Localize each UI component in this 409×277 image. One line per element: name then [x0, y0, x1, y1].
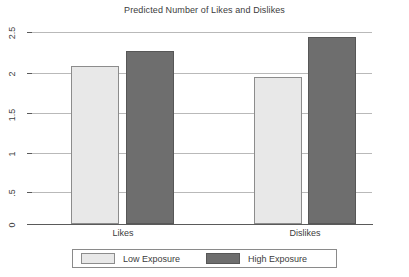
- y-tick-label-1: 1: [7, 142, 17, 166]
- legend-label-low-exposure: Low Exposure: [123, 254, 180, 264]
- bar-likes-low-exposure[interactable]: [71, 66, 119, 224]
- legend-entry-high-exposure[interactable]: High Exposure: [206, 250, 307, 267]
- y-tick-label-0.5: .5: [7, 181, 17, 205]
- y-tick-label-1.5: 1.5: [7, 103, 17, 127]
- chart-legend: Low Exposure High Exposure: [72, 249, 337, 268]
- y-tick-label-2.5: 2.5: [7, 21, 17, 45]
- chart-title: Predicted Number of Likes and Dislikes: [0, 5, 409, 15]
- plot-area: [32, 32, 372, 224]
- gridline-2.5: [32, 32, 372, 33]
- bar-dislikes-high-exposure[interactable]: [308, 37, 356, 224]
- bar-likes-high-exposure[interactable]: [126, 51, 174, 224]
- x-category-label-likes: Likes: [83, 228, 163, 238]
- legend-label-high-exposure: High Exposure: [248, 254, 307, 264]
- legend-swatch-low-exposure-icon: [81, 253, 115, 264]
- x-axis-line: [32, 224, 373, 225]
- x-category-label-dislikes: Dislikes: [265, 228, 345, 238]
- y-tick-label-2: 2: [7, 62, 17, 86]
- chart-figure: Predicted Number of Likes and Dislikes 0…: [0, 0, 409, 277]
- y-tick-label-0: 0: [7, 213, 17, 237]
- legend-entry-low-exposure[interactable]: Low Exposure: [81, 250, 180, 267]
- legend-swatch-high-exposure-icon: [206, 253, 240, 264]
- bar-dislikes-low-exposure[interactable]: [254, 77, 302, 225]
